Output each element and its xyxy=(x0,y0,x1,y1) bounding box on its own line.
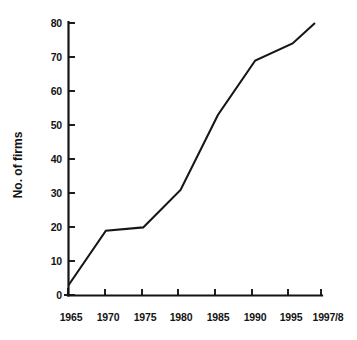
y-tick-label-50: 50 xyxy=(51,119,63,131)
x-tick-label-1975: 1975 xyxy=(134,311,157,323)
x-tick-label-1995: 1995 xyxy=(280,311,303,323)
data-series-line xyxy=(69,23,316,285)
x-tick-label-1965: 1965 xyxy=(60,311,83,323)
y-tick-label-80: 80 xyxy=(51,17,63,29)
x-tick-label-1990: 1990 xyxy=(244,311,267,323)
x-tick-label-1970: 1970 xyxy=(97,311,120,323)
x-tick-label-1980: 1980 xyxy=(170,311,193,323)
y-tick-label-70: 70 xyxy=(51,51,63,63)
y-tick-label-30: 30 xyxy=(51,187,63,199)
y-tick-label-40: 40 xyxy=(51,153,63,165)
y-axis-title: No. of firms xyxy=(11,131,25,198)
y-tick-label-0: 0 xyxy=(56,289,62,301)
x-tick-label-1997-8: 1997/8 xyxy=(313,311,344,323)
y-tick-label-60: 60 xyxy=(51,85,63,97)
y-tick-label-10: 10 xyxy=(51,255,63,267)
y-tick-label-20: 20 xyxy=(51,221,63,233)
chart-container: No. of firms 80 70 60 50 40 30 20 10 0 xyxy=(0,0,357,340)
line-chart-plot: No. of firms 80 70 60 50 40 30 20 10 0 xyxy=(0,0,357,340)
x-tick-label-1985: 1985 xyxy=(207,311,230,323)
